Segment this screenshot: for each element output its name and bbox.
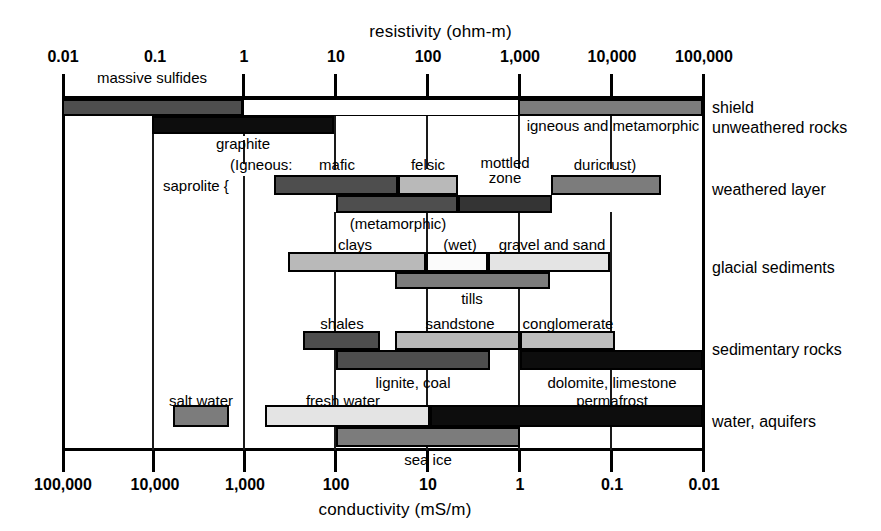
top-tick-2: 1 [240, 48, 249, 66]
top-tickmark-6 [610, 74, 613, 98]
top-tickmark-0 [62, 74, 65, 98]
bar-permafrost [430, 405, 703, 427]
top-tickmark-3 [334, 74, 337, 98]
label-conglomerate: conglomerate [523, 316, 614, 331]
bar-gravel-sand [488, 252, 610, 272]
bar-conglomerate [520, 331, 615, 350]
bar-clays [288, 252, 426, 272]
label-shales: shales [320, 316, 363, 331]
bottom-tickmark-3 [334, 450, 337, 472]
label-graphite: graphite [216, 136, 270, 151]
label-wet: (wet) [443, 237, 476, 252]
bar-igneous-metamorphic [518, 99, 703, 116]
bar-wet [426, 252, 488, 272]
bar-sea-ice [336, 427, 520, 447]
top-tick-6: 10,000 [588, 48, 637, 66]
top-tick-5: 1,000 [500, 48, 540, 66]
top-tickmark-2 [242, 74, 245, 98]
label-mottled-zone: zone [489, 170, 522, 185]
label-mottled: mottled [480, 155, 529, 170]
bar-fresh-water [265, 405, 430, 427]
bar-graphite [152, 116, 334, 134]
label-tills: tills [461, 291, 483, 306]
bar-shales [303, 331, 380, 350]
label-igneous-paren: (Igneous: [230, 157, 293, 172]
bar-massive-sulfides [62, 99, 243, 116]
bottom-tick-6: 0.1 [601, 476, 623, 494]
bottom-tick-0: 100,000 [34, 476, 92, 494]
label-saprolite: saprolite { [163, 178, 229, 193]
bar-sandstone [395, 331, 520, 350]
label-clays: clays [338, 237, 372, 252]
top-tickmark-4 [426, 74, 429, 98]
bottom-axis-title: conductivity (mS/m) [0, 500, 790, 520]
label-massive-sulfides: massive sulfides [97, 70, 207, 85]
label-lignite-coal: lignite, coal [375, 375, 450, 390]
bottom-tick-5: 1 [516, 476, 525, 494]
top-tick-7: 100,000 [675, 48, 733, 66]
bar-duricrust [551, 175, 661, 195]
bottom-tick-3: 100 [323, 476, 350, 494]
plot-right-border [702, 96, 705, 451]
label-sandstone: sandstone [425, 316, 494, 331]
bottom-tickmark-5 [518, 450, 521, 472]
label-gravel-sand: gravel and sand [499, 237, 606, 252]
bottom-tickmark-4 [426, 450, 429, 472]
top-tick-1: 0.1 [144, 48, 166, 66]
bottom-tick-1: 10,000 [131, 476, 180, 494]
label-felsic: felsic [411, 157, 445, 172]
bar-felsic [398, 175, 458, 195]
row-label-water: water, aquifers [712, 412, 816, 431]
gridline-1-lower [243, 176, 245, 450]
bottom-tickmark-7 [702, 450, 705, 472]
label-igneous-metamorphic: igneous and metamorphic [527, 118, 700, 133]
top-tick-0: 0.01 [47, 48, 78, 66]
label-dolomite-limestone: dolomite, limestone [547, 375, 676, 390]
bar-mottled-zone [458, 195, 552, 213]
row-label-shield-1: shield [712, 98, 754, 117]
bar-tills [395, 272, 550, 289]
top-tickmark-5 [518, 74, 521, 98]
chart-canvas: resistivity (ohm-m) 0.01 0.1 1 10 100 1,… [0, 0, 881, 531]
plot-bottom-border [62, 448, 705, 451]
row-label-sedimentary: sedimentary rocks [712, 340, 842, 359]
label-mafic: mafic [319, 157, 355, 172]
bottom-tickmark-0 [62, 450, 65, 472]
bar-metamorphic [336, 195, 458, 213]
top-tick-3: 10 [327, 48, 345, 66]
row-label-weathered: weathered layer [712, 180, 826, 199]
bottom-tick-4: 10 [419, 476, 437, 494]
bar-dolomite-limestone [520, 350, 703, 370]
top-tick-4: 100 [415, 48, 442, 66]
bottom-tickmark-1 [152, 450, 155, 472]
plot-left-border [62, 96, 65, 451]
bar-shield-outline [243, 99, 519, 116]
bottom-tickmark-6 [610, 450, 613, 472]
row-label-glacial: glacial sediments [712, 258, 835, 277]
label-duricrust: duricrust) [574, 157, 637, 172]
label-metamorphic-paren: (metamorphic) [350, 216, 447, 231]
bar-lignite-coal [336, 350, 490, 370]
bottom-tickmark-2 [243, 450, 246, 472]
top-tickmark-7 [702, 74, 705, 98]
top-axis-title: resistivity (ohm-m) [0, 22, 881, 42]
bottom-tick-7: 0.01 [688, 476, 719, 494]
bottom-tick-2: 1,000 [225, 476, 265, 494]
row-label-shield-2: unweathered rocks [712, 118, 847, 137]
gridline-0.1 [152, 115, 154, 450]
bar-mafic [274, 175, 398, 195]
bar-salt-water [173, 405, 229, 427]
